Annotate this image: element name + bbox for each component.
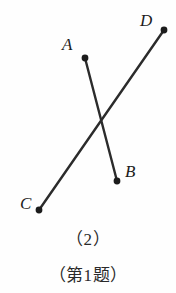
point-label-d: D [140, 12, 152, 29]
point-label-b: B [125, 163, 135, 180]
point-d-dot [161, 27, 168, 34]
point-c-dot [36, 207, 43, 214]
geometry-diagram [0, 0, 176, 225]
point-a-dot [82, 55, 89, 62]
point-label-a: A [62, 36, 72, 53]
point-label-c: C [20, 195, 31, 212]
figure-title-caption: （第1题） [0, 267, 176, 284]
point-b-dot [114, 178, 121, 185]
segment-cd [39, 30, 164, 210]
figure-number-caption: （2） [0, 231, 176, 248]
figure-page: A B C D （2） （第1题） [0, 0, 176, 293]
